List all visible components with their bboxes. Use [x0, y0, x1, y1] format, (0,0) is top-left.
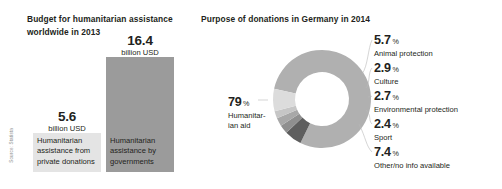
- callout-label-sport: Sport: [374, 133, 399, 143]
- bar-value-unit-private-donations: billion USD: [33, 125, 101, 133]
- callout-percent-animal-protection: 5.7: [374, 33, 391, 47]
- percent-sign-culture: %: [392, 65, 398, 74]
- bar-value-number-governments: 16.4: [106, 34, 174, 48]
- callout-percent-environmental-protection: 2.7: [374, 89, 391, 103]
- callout-other-no-info: 7.4% Other/no info available: [374, 143, 450, 171]
- bar-value-number-private-donations: 5.6: [33, 110, 101, 124]
- percent-sign-other-no-info: %: [392, 149, 398, 158]
- bar-caption-private-donations: Humanitarian assistance from private don…: [37, 136, 100, 167]
- bar-value-private-donations: 5.6 billion USD: [33, 110, 101, 133]
- callout-percent-other-no-info: 7.4: [374, 145, 391, 159]
- callout-animal-protection: 5.7% Animal protection: [374, 31, 433, 59]
- callout-percent-humanitarian-aid: 79: [228, 95, 242, 109]
- percent-sign-humanitarian-aid: %: [243, 99, 249, 108]
- infographic-root: Budget for humanitarian assistance world…: [0, 0, 502, 189]
- callout-label-animal-protection: Animal protection: [374, 49, 433, 59]
- callout-percent-sport: 2.4: [374, 117, 391, 131]
- callout-label-humanitarian-aid: Humanitar- ian aid: [228, 111, 266, 130]
- callout-percent-culture: 2.9: [374, 61, 391, 75]
- percent-sign-animal-protection: %: [392, 37, 398, 46]
- callout-environmental-protection: 2.7% Environmental protection: [374, 87, 458, 115]
- callout-label-other-no-info: Other/no info available: [374, 161, 450, 171]
- callout-label-culture: Culture: [374, 77, 399, 87]
- bar-chart-panel: Budget for humanitarian assistance world…: [0, 0, 210, 189]
- callout-sport: 2.4% Sport: [374, 115, 399, 143]
- percent-sign-environmental-protection: %: [392, 93, 398, 102]
- bar-value-governments: 16.4 billion USD: [106, 34, 174, 57]
- bar-caption-governments: Humanitarian assistance by governments: [110, 136, 173, 167]
- callout-label-environmental-protection: Environmental protection: [374, 105, 458, 115]
- bar-value-unit-governments: billion USD: [106, 49, 174, 57]
- percent-sign-sport: %: [392, 121, 398, 130]
- donut-chart-title: Purpose of donations in Germany in 2014: [201, 13, 441, 26]
- source-credit: Source: Statista: [9, 128, 14, 163]
- callout-culture: 2.9% Culture: [374, 59, 399, 87]
- callout-humanitarian-aid: 79% Humanitar- ian aid: [228, 93, 266, 130]
